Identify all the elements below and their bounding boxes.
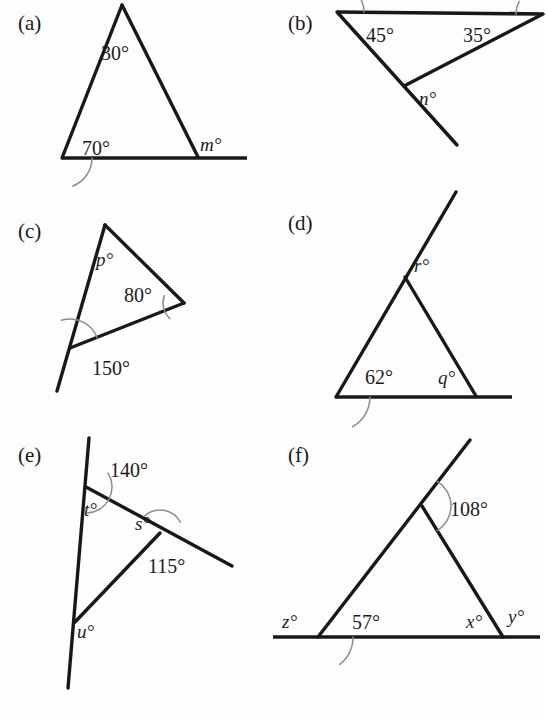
angle-s: s° xyxy=(135,513,150,534)
angle-115: 115° xyxy=(148,555,185,577)
figure-part-b: (b)45°35°n° xyxy=(288,0,543,145)
angle-45: 45° xyxy=(366,24,394,46)
segment-c-1 xyxy=(70,303,184,348)
angle-m: m° xyxy=(200,134,222,155)
part-label-f: (f) xyxy=(288,443,309,467)
arc-57 xyxy=(340,637,353,665)
angle-z: z° xyxy=(281,611,297,632)
tick-left-side xyxy=(367,329,376,345)
segment-b-0 xyxy=(337,12,543,14)
segment-a-0 xyxy=(62,5,122,158)
part-label-b: (b) xyxy=(288,11,313,35)
segment-e-2 xyxy=(75,533,160,622)
segment-f-1 xyxy=(422,506,503,637)
arc-150 xyxy=(62,319,98,338)
base-left-arc-70 xyxy=(73,158,92,186)
worksheet-page: (a)30°70°m°(b)45°35°n°(c)p°80°150°(d)r°6… xyxy=(0,0,546,719)
angle-150: 150° xyxy=(92,357,130,379)
angle-q: q° xyxy=(438,367,456,388)
segment-e-0 xyxy=(68,438,89,688)
angle-62: 62° xyxy=(365,366,393,388)
angle-35: 35° xyxy=(463,24,491,46)
segment-a-1 xyxy=(122,5,198,157)
angle-u: u° xyxy=(77,621,95,642)
angle-80: 80° xyxy=(124,284,152,306)
figure-part-f: (f)108°z°57°x°y° xyxy=(273,440,540,665)
figure-part-a: (a)30°70°m° xyxy=(18,0,247,186)
part-label-e: (e) xyxy=(18,443,41,467)
angle-30: 30° xyxy=(101,42,129,64)
angle-t: t° xyxy=(84,499,97,520)
tick-right-side xyxy=(437,329,446,345)
part-label-d: (d) xyxy=(288,211,313,235)
figure-part-c: (c)p°80°150° xyxy=(18,219,184,391)
angle-70: 70° xyxy=(82,137,110,159)
angle-x: x° xyxy=(465,611,482,632)
figure-part-e: (e)140°t°s°115°u° xyxy=(18,438,232,688)
angle-140: 140° xyxy=(110,459,148,481)
angle-y: y° xyxy=(506,606,524,627)
figure-part-d: (d)r°62°q° xyxy=(288,192,512,427)
angle-r: r° xyxy=(414,255,429,276)
angle-57: 57° xyxy=(352,611,380,633)
angle-p: p° xyxy=(94,249,114,270)
angle-108: 108° xyxy=(450,498,488,520)
arc-62 xyxy=(352,397,370,427)
angle-n: n° xyxy=(419,88,437,109)
segment-f-0 xyxy=(318,440,470,637)
part-label-c: (c) xyxy=(18,219,41,243)
arc-108 xyxy=(437,481,451,530)
geometry-figures: (a)30°70°m°(b)45°35°n°(c)p°80°150°(d)r°6… xyxy=(0,0,546,719)
part-label-a: (a) xyxy=(18,11,41,35)
segment-b-1 xyxy=(337,12,457,145)
arc-45 xyxy=(355,0,364,12)
